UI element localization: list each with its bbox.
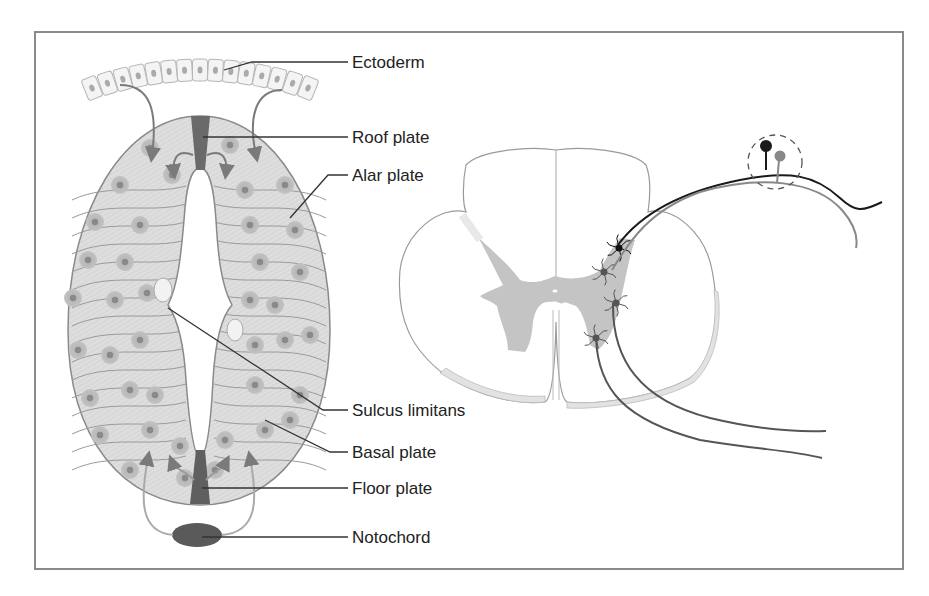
cell [246,336,264,354]
label-alar-plate: Alar plate [352,166,424,185]
cell [106,291,124,309]
ectoderm-cell [160,60,177,84]
cell [171,437,189,455]
cell [236,181,254,199]
ectoderm-cell [193,59,208,81]
cell [301,326,319,344]
cell [79,251,97,269]
ectoderm-cells [81,59,319,101]
cell [276,176,294,194]
cell [221,136,239,154]
neural-tube-diagram [64,59,330,547]
cell [101,346,119,364]
figure-canvas: Ectoderm Roof plate Alar plate Sulcus li… [0,0,929,596]
spinal-cord-diagram [399,135,882,458]
cell [291,263,309,281]
cell [131,331,149,349]
cell [81,389,99,407]
cell [246,376,264,394]
cell [91,426,109,444]
sensory-neuron-body-light [775,151,786,162]
cell [241,291,259,309]
ectoderm-cell [145,61,163,85]
cell [138,284,156,302]
ectoderm-cell [176,59,192,82]
cell [86,213,104,231]
cell [121,461,139,479]
cell [141,421,159,439]
cell [64,289,82,307]
label-floor-plate: Floor plate [352,479,432,498]
ganglion-cell-stem [777,160,779,183]
ectoderm-cell [222,60,239,84]
cell [141,139,159,157]
central-canal-spinal [553,290,558,293]
cell [116,253,134,271]
cell [111,176,129,194]
label-ectoderm: Ectoderm [352,53,425,72]
label-notochord: Notochord [352,528,430,547]
cell [163,166,181,184]
notochord [172,523,222,547]
label-sulcus-limitans: Sulcus limitans [352,401,465,420]
cell [121,381,139,399]
dorsal-root-ganglion [748,135,802,189]
cell [241,216,259,234]
cell [266,296,284,314]
ectoderm-cell [207,59,223,82]
label-roof-plate: Roof plate [352,128,430,147]
cell [276,331,294,349]
label-basal-plate: Basal plate [352,443,436,462]
cell [281,411,299,429]
cell [251,253,269,271]
mitotic-cell [154,278,172,302]
cell [286,221,304,239]
cell [131,216,149,234]
mitotic-cell [227,319,243,341]
spinal-cord-outline [399,149,715,403]
cell [146,386,164,404]
sensory-neuron-body-dark [760,140,772,152]
cell [69,341,87,359]
cell [216,431,234,449]
